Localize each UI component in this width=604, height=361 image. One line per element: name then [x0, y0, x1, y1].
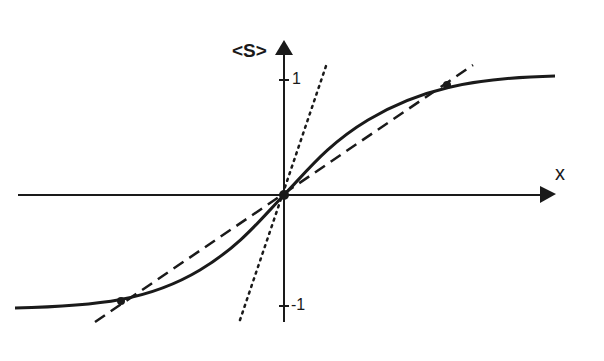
y-axis-arrow-icon — [275, 40, 293, 55]
origin-point — [279, 190, 289, 200]
y-axis-label: <S> — [232, 40, 267, 62]
x-axis-label: x — [555, 162, 565, 185]
x-axis-arrow-icon — [540, 186, 556, 203]
intersection-point-positive — [443, 81, 451, 89]
tick-label-neg-1: -1 — [291, 296, 305, 314]
tick-label-pos-1: 1 — [292, 70, 301, 88]
intersection-point-negative — [117, 297, 125, 305]
